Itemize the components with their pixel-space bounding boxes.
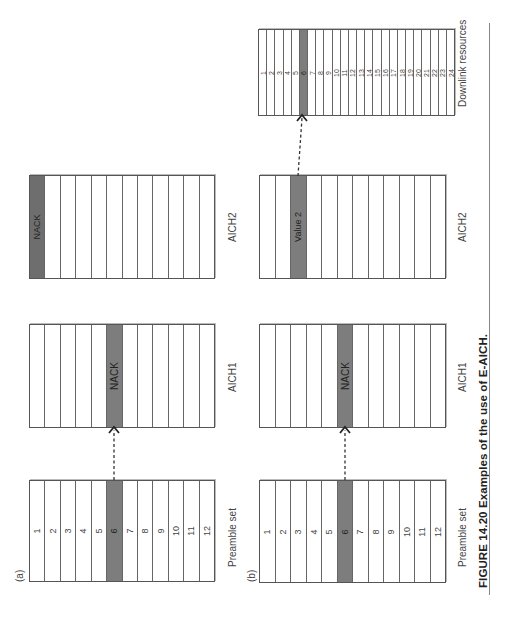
preamble-cell: 1 [260,481,276,582]
preamble-cell: 3 [291,481,307,582]
panel-b-aich2-label: AICH2 [457,213,468,242]
panel-b-aich2: Value 2 [259,175,446,279]
panel-a-aich2: NACK [29,175,215,279]
panel-b-preamble-set: 1 2 3 4 5 6 7 8 9 10 11 12 [259,480,446,583]
preamble-cell: 11 [415,481,431,582]
aich1-nack-cell: NACK [107,325,122,427]
arrow-icon [104,424,124,482]
figure-caption: FIGURE 14.20 Examples of the use of E-AI… [477,334,489,588]
panel-a-aich2-label: AICH2 [227,213,238,242]
preamble-cell: 8 [138,481,153,581]
downlink-cell-selected: 6 [300,30,308,115]
preamble-cell: 2 [45,481,60,581]
panel-b-downlink-resources: 1 2 3 4 5 6 7 8 9 10 11 12 13 14 15 16 1… [258,29,455,116]
preamble-cell-selected: 6 [338,481,354,582]
preamble-cell: 9 [153,481,168,581]
arrow-icon [335,424,355,482]
preamble-cell: 8 [369,481,385,582]
panel-a-aich1-label: AICH1 [227,363,238,392]
panel-b-aich1-label: AICH1 [457,363,468,392]
preamble-cell: 4 [307,481,323,582]
preamble-cell: 11 [184,481,199,581]
aich2-value-cell: Value 2 [291,176,307,278]
preamble-cell: 5 [92,481,107,581]
preamble-cell: 3 [61,481,76,581]
aich2-nack-cell: NACK [30,176,45,278]
panel-a-preamble-label: Preamble set [227,508,238,567]
preamble-cell: 12 [431,481,446,582]
panel-a-label: (a) [14,570,25,582]
preamble-cell: 5 [322,481,338,582]
panel-b-label: (b) [246,570,257,582]
preamble-cell: 2 [276,481,292,582]
panel-a-preamble-set: 1 2 3 4 5 6 7 8 9 10 11 12 [29,480,215,582]
preamble-cell-selected: 6 [107,481,122,581]
panel-b-aich1: NACK [259,324,446,428]
preamble-cell: 10 [169,481,184,581]
preamble-cell: 7 [123,481,138,581]
preamble-cell: 1 [30,481,45,581]
panel-a-aich1: NACK [29,324,215,428]
aich1-nack-cell: NACK [338,325,354,427]
panel-b-downlink-label: Downlink resources [457,20,468,107]
preamble-cell: 4 [76,481,91,581]
panel-b-preamble-label: Preamble set [457,508,468,567]
preamble-cell: 9 [384,481,400,582]
preamble-cell: 7 [353,481,369,582]
arrow-icon [290,112,314,178]
preamble-cell: 12 [200,481,214,581]
preamble-cell: 10 [400,481,416,582]
caption-rule [489,23,490,595]
